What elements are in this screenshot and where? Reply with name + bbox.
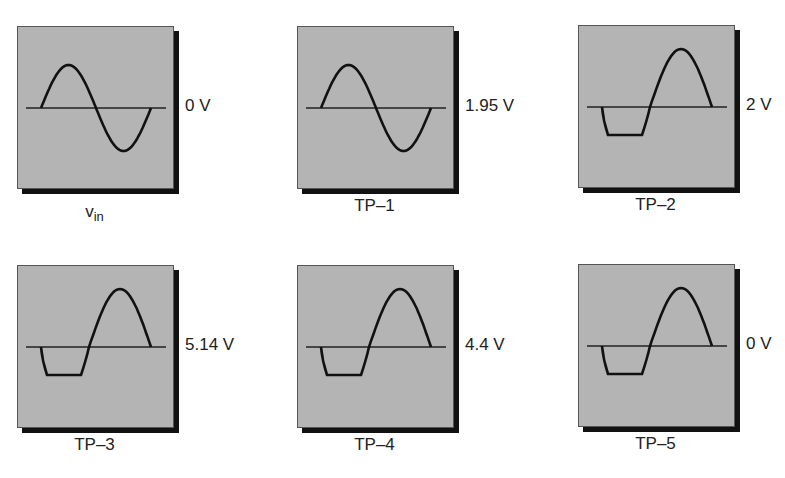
waveform-trace-icon bbox=[298, 27, 453, 188]
waveform-path bbox=[602, 288, 712, 374]
waveform-trace-icon bbox=[18, 27, 173, 188]
test-point-label: TP–5 bbox=[578, 434, 733, 454]
dc-voltage-label: 5.14 V bbox=[185, 335, 234, 355]
waveform-path bbox=[321, 289, 431, 375]
waveform-trace-icon bbox=[579, 265, 734, 426]
test-point-name: v bbox=[85, 202, 94, 221]
dc-voltage-label: 0 V bbox=[746, 334, 772, 354]
dc-voltage-label: 4.4 V bbox=[465, 335, 505, 355]
test-point-label: TP–4 bbox=[297, 435, 452, 455]
test-point-name: TP–4 bbox=[354, 435, 395, 454]
oscilloscope-screen bbox=[578, 264, 735, 427]
oscilloscope-screen bbox=[578, 25, 735, 188]
test-point-label: TP–3 bbox=[17, 435, 172, 455]
test-point-subscript: in bbox=[94, 209, 104, 224]
test-point-name: TP–2 bbox=[635, 195, 676, 214]
test-point-name: TP–3 bbox=[74, 435, 115, 454]
dc-voltage-label: 2 V bbox=[746, 95, 772, 115]
waveform-path bbox=[602, 49, 712, 135]
waveform-trace-icon bbox=[298, 266, 453, 427]
waveform-trace-icon bbox=[18, 266, 173, 427]
oscilloscope-screen bbox=[17, 26, 174, 189]
dc-voltage-label: 1.95 V bbox=[465, 96, 514, 116]
test-point-name: TP–1 bbox=[354, 196, 395, 215]
waveform-trace-icon bbox=[579, 26, 734, 187]
dc-voltage-label: 0 V bbox=[185, 96, 211, 116]
test-point-label: vin bbox=[17, 202, 172, 224]
test-point-label: TP–2 bbox=[578, 195, 733, 215]
oscilloscope-screen bbox=[17, 265, 174, 428]
oscilloscope-screen bbox=[297, 26, 454, 189]
test-point-name: TP–5 bbox=[635, 434, 676, 453]
test-point-label: TP–1 bbox=[297, 196, 452, 216]
oscilloscope-screen bbox=[297, 265, 454, 428]
waveform-path bbox=[41, 289, 151, 375]
